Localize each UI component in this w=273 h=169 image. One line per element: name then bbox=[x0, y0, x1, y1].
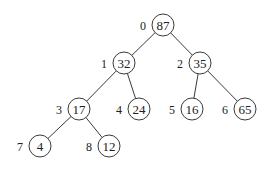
node-index-label: 7 bbox=[17, 140, 23, 154]
node-index-label: 8 bbox=[86, 140, 92, 154]
tree-node: 352 bbox=[177, 52, 211, 74]
node-index-label: 1 bbox=[101, 57, 107, 71]
node-value: 65 bbox=[239, 102, 252, 117]
node-index-label: 2 bbox=[177, 57, 183, 71]
tree-node: 128 bbox=[86, 135, 120, 157]
tree-node: 321 bbox=[101, 52, 135, 74]
node-value: 12 bbox=[103, 139, 116, 154]
node-value: 17 bbox=[73, 102, 87, 117]
node-index-label: 0 bbox=[140, 19, 146, 33]
tree-edge bbox=[48, 117, 71, 139]
node-index-label: 4 bbox=[116, 103, 122, 117]
node-value: 87 bbox=[157, 18, 171, 33]
tree-node: 656 bbox=[222, 98, 256, 120]
tree-edge bbox=[132, 33, 155, 56]
node-value: 16 bbox=[186, 102, 200, 117]
tree-edge bbox=[194, 74, 198, 98]
node-value: 4 bbox=[37, 139, 44, 154]
heap-tree-diagram: 87032135217324416565647128 bbox=[0, 0, 273, 169]
tree-node: 47 bbox=[17, 135, 51, 157]
tree-edge bbox=[127, 73, 135, 98]
node-value: 24 bbox=[133, 102, 147, 117]
tree-edge bbox=[86, 118, 102, 138]
tree-edges bbox=[48, 33, 237, 139]
tree-node: 244 bbox=[116, 98, 150, 120]
node-value: 32 bbox=[118, 56, 131, 71]
node-index-label: 3 bbox=[56, 103, 62, 117]
node-index-label: 6 bbox=[222, 103, 228, 117]
tree-nodes: 87032135217324416565647128 bbox=[17, 14, 256, 157]
tree-node: 165 bbox=[169, 98, 203, 120]
tree-edge bbox=[87, 71, 117, 101]
tree-node: 173 bbox=[56, 98, 90, 120]
tree-edge bbox=[171, 33, 193, 55]
tree-edge bbox=[208, 71, 238, 101]
node-index-label: 5 bbox=[169, 103, 175, 117]
node-value: 35 bbox=[194, 56, 207, 71]
tree-node: 870 bbox=[140, 14, 174, 36]
